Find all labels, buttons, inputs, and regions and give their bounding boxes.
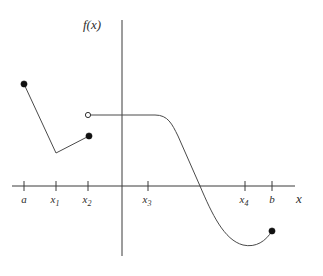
axes-group — [12, 20, 295, 256]
tick-label-a-base: a — [21, 193, 27, 205]
tick-label-b: b — [269, 193, 275, 205]
function-graph-figure: f(x) x a x1 x2 x3 x4 b — [0, 0, 323, 276]
tick-label-x4-sub: 4 — [244, 199, 248, 208]
x-axis-label: x — [295, 191, 302, 206]
tick-label-x4: x4 — [239, 193, 249, 208]
endpoint-markers-group — [21, 81, 275, 234]
left-descending-segment — [24, 84, 89, 153]
endpoint-dot-at-b — [269, 228, 275, 234]
tick-label-b-base: b — [269, 193, 275, 205]
descending-to-minimum-segment — [200, 186, 272, 246]
tick-label-x1: x1 — [50, 193, 60, 208]
endpoint-dot-at-a — [21, 81, 27, 87]
y-axis-label: f(x) — [83, 17, 101, 32]
tick-labels-group: a x1 x2 x3 x4 b — [21, 193, 275, 208]
tick-label-x2: x2 — [82, 193, 92, 208]
tick-label-a: a — [21, 193, 27, 205]
open-circle-hole-at-x2 — [85, 112, 90, 117]
tick-label-x3: x3 — [142, 193, 152, 208]
endpoint-dot-left-of-x2 — [86, 133, 92, 139]
tick-label-x2-sub: 2 — [87, 199, 91, 208]
function-curve-group — [24, 84, 272, 246]
tick-label-x3-sub: 3 — [146, 199, 151, 208]
plateau-segment — [88, 115, 200, 186]
axis-labels-group: f(x) x — [83, 17, 302, 206]
plot-canvas: f(x) x a x1 x2 x3 x4 b — [0, 0, 323, 276]
tick-label-x1-sub: 1 — [55, 199, 59, 208]
